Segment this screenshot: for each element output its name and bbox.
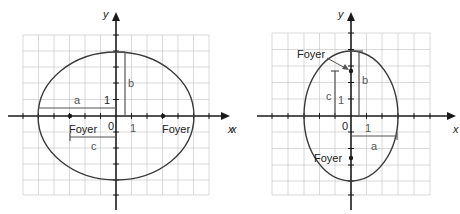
right-focus-2-label: Foyer: [314, 152, 342, 164]
left-y-label: y: [102, 8, 110, 20]
left-a-label: a: [74, 94, 81, 106]
left-y-arrow-icon: [112, 12, 120, 21]
left-focus-1-label: Foyer: [69, 123, 97, 135]
right-c-label: c: [326, 90, 332, 102]
right-origin-label: 0: [342, 120, 348, 132]
right-focus-1: [349, 69, 353, 73]
ellipse-diagrams: y x Foyer Foyer 0 1 1 a b c: [0, 0, 460, 214]
right-unit-x-label: 1: [365, 122, 371, 134]
left-focus-2: [161, 114, 165, 118]
right-figure: y x x Foyer Foyer 0 1 1 a b c: [230, 8, 459, 210]
left-x-arrow-icon: [221, 112, 230, 120]
left-focus-2-label: Foyer: [162, 123, 190, 135]
right-unit-y-label: 1: [338, 94, 344, 106]
right-focus-1-label: Foyer: [297, 48, 325, 60]
right-b-label: b: [362, 74, 368, 86]
right-x-label-left: x: [230, 123, 237, 135]
right-focus-2: [349, 156, 353, 160]
right-a-label: a: [371, 140, 378, 152]
right-y-label: y: [337, 8, 345, 20]
left-origin-label: 0: [108, 120, 114, 132]
left-unit-x-label: 1: [130, 122, 136, 134]
left-unit-y-label: 1: [104, 94, 110, 106]
left-b-label: b: [128, 77, 134, 89]
right-x-label: x: [452, 123, 459, 135]
left-c-label: c: [91, 140, 97, 152]
left-focus-1: [68, 114, 72, 118]
right-x-arrow-icon: [447, 112, 456, 120]
right-y-arrow-icon: [347, 12, 355, 21]
left-figure: y x Foyer Foyer 0 1 1 a b c: [8, 8, 234, 210]
